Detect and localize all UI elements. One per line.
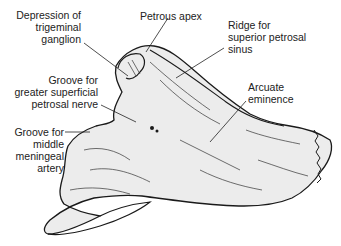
label-groove-middle-meningeal-artery: Groove for middle meningeal artery — [2, 126, 64, 174]
petrosal-groove-mark — [156, 130, 159, 133]
anatomy-diagram: Depression of trigeminal ganglion Petrou… — [0, 0, 341, 246]
label-depression-trigeminal-ganglion: Depression of trigeminal ganglion — [6, 9, 81, 45]
label-petrous-apex: Petrous apex — [140, 10, 202, 22]
label-ridge-superior-petrosal-sinus: Ridge for superior petrosal sinus — [228, 19, 306, 55]
petrosal-groove-mark — [150, 126, 154, 130]
label-groove-greater-superficial-petrosal-nerve: Groove for greater superficial petrosal … — [2, 74, 98, 110]
label-arcuate-eminence: Arcuate eminence — [248, 81, 294, 105]
